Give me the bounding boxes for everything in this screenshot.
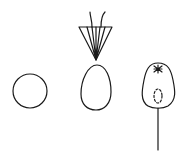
pappus-hairs [90,12,105,27]
egg-outline [81,65,111,110]
egg-shape-with-pappus [79,12,112,110]
pappus-rays [87,27,105,60]
botanical-diagram [0,0,188,160]
dashed-inner-oval [154,89,162,103]
apex-star-icon [154,65,162,73]
round-shape [13,74,47,108]
pear-shape-with-stalk [142,63,174,150]
